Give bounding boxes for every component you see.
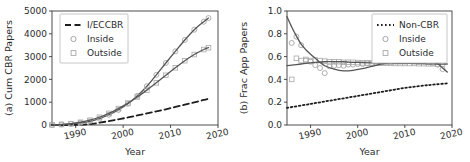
two-panel-chart: 1990200020102020Year01000200030004000500… xyxy=(0,0,470,162)
x-tick-label: 2020 xyxy=(205,127,230,142)
figure-container: 1990200020102020Year01000200030004000500… xyxy=(0,0,470,162)
panel-a: 1990200020102020Year01000200030004000500… xyxy=(3,6,230,157)
series-line-non-cbr xyxy=(287,83,447,108)
legend-label: Inside xyxy=(87,34,114,44)
y-axis-title: (b) Frac App Papers xyxy=(238,22,249,115)
legend-label: Inside xyxy=(399,34,426,44)
marker-circle xyxy=(303,58,308,63)
y-tick-label: 0.8 xyxy=(268,29,283,39)
legend-panel-b: Non-CBRInsideOutside xyxy=(372,14,447,63)
y-tick-label: 1.0 xyxy=(268,6,283,16)
legend-label: I/ECCBR xyxy=(87,20,123,30)
legend-label: Non-CBR xyxy=(399,20,439,30)
x-tick-label: 2020 xyxy=(439,127,464,142)
y-tick-label: 2000 xyxy=(24,75,47,85)
x-tick-label: 1990 xyxy=(63,127,88,142)
x-tick-label: 1990 xyxy=(298,127,323,142)
marker-circle xyxy=(318,66,323,71)
x-tick-label: 2000 xyxy=(345,127,370,142)
x-axis-title: Year xyxy=(124,146,145,157)
y-tick-label: 1000 xyxy=(24,97,47,107)
legend-panel-a: I/ECCBRInsideOutside xyxy=(60,14,128,63)
marker-circle xyxy=(289,40,294,45)
marker-square xyxy=(294,56,299,61)
y-tick-label: 0.2 xyxy=(268,97,282,107)
marker-square xyxy=(299,58,304,63)
marker-square xyxy=(289,77,294,82)
marker-circle xyxy=(313,63,318,68)
y-tick-label: 0.6 xyxy=(268,52,283,62)
x-tick-label: 2010 xyxy=(158,127,183,142)
panel-b: 1990200020102020Year0.00.20.40.60.81.0(b… xyxy=(238,6,464,157)
y-tick-label: 4000 xyxy=(24,29,47,39)
marker-circle xyxy=(341,63,346,68)
y-tick-label: 0.0 xyxy=(268,120,283,130)
marker-circle xyxy=(322,71,327,76)
x-tick-label: 2000 xyxy=(110,127,135,142)
y-tick-label: 0 xyxy=(41,120,47,130)
y-tick-label: 5000 xyxy=(24,6,47,16)
marker-circle xyxy=(336,63,341,68)
legend-label: Outside xyxy=(87,48,122,58)
legend-label: Outside xyxy=(399,48,434,58)
x-tick-label: 2010 xyxy=(392,127,417,142)
y-axis-title: (a) Cum CBR Papers xyxy=(3,20,14,116)
y-tick-label: 0.4 xyxy=(268,75,283,85)
x-axis-title: Year xyxy=(358,146,379,157)
y-tick-label: 3000 xyxy=(24,52,47,62)
